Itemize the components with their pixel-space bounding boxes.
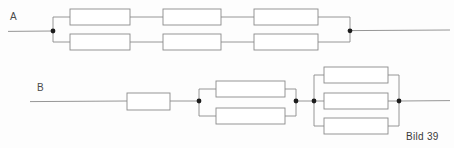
resistor-b-par2-bottom (216, 108, 285, 124)
circuit-a (8, 9, 450, 50)
node-b-4 (397, 99, 402, 104)
circuit-diagram (0, 0, 454, 148)
resistor-b-par3-middle (324, 93, 388, 109)
resistor-a2 (163, 9, 221, 25)
lead-out-a (350, 30, 450, 31)
resistor-a5 (163, 34, 221, 50)
resistor-a4 (70, 34, 130, 50)
terminal-label-b: B (37, 83, 44, 93)
resistor-a1 (70, 9, 130, 25)
fanout-left-a (53, 17, 70, 42)
node-b-1 (197, 99, 202, 104)
fanout-b-par2 (199, 89, 216, 116)
figure-caption: Bild 39 (406, 132, 439, 142)
node-b-2 (294, 99, 299, 104)
lead-in-b (30, 101, 127, 102)
resistor-b-par3-bottom (324, 118, 388, 134)
resistor-a6 (254, 34, 318, 50)
node-b-3 (312, 99, 317, 104)
resistor-b-par3-top (324, 67, 388, 83)
terminal-label-a: A (10, 12, 17, 22)
circuit-b (30, 67, 450, 134)
resistor-b-series (127, 93, 170, 110)
resistor-b-par2-top (216, 81, 285, 97)
node-a-left (51, 29, 56, 34)
figure-canvas: A B Bild 39 (0, 0, 454, 148)
node-a-right (348, 28, 353, 33)
resistor-a3 (254, 9, 318, 25)
